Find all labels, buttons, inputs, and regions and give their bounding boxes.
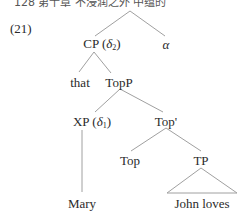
- branch-topp-topbar: [120, 89, 163, 112]
- tree-branches: [0, 0, 251, 218]
- branch-root-cp: [95, 11, 130, 36]
- branch-cp-topp: [94, 52, 111, 73]
- node-xp: XP (δ1): [73, 115, 111, 130]
- node-top-bar: Top': [155, 115, 177, 128]
- branch-cp-that: [79, 52, 94, 72]
- branch-topbar-top: [131, 128, 166, 151]
- tp-triangle: [167, 168, 237, 193]
- branch-root-alpha: [130, 11, 165, 36]
- branch-topbar-tp: [166, 128, 201, 151]
- node-that: that: [70, 76, 90, 89]
- node-cp: CP (δ2): [83, 37, 120, 52]
- node-top: Top: [120, 154, 140, 167]
- node-alpha: α: [163, 38, 170, 51]
- node-topp: TopP: [105, 76, 132, 89]
- node-john-loves: John loves: [174, 197, 229, 210]
- node-tp: TP: [193, 154, 208, 167]
- node-mary: Mary: [68, 197, 96, 210]
- branch-topp-xp: [95, 89, 120, 112]
